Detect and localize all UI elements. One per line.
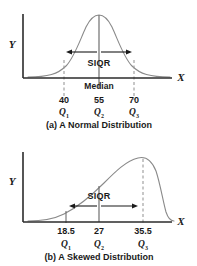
statistics-figure-page: Y X SIQR Median 40 55 70 Q1 [0,0,197,266]
tick-value-q1: 18.5 [57,226,75,236]
siqr-label: SIQR [88,58,111,68]
quartile-subscript-q3: 3 [136,113,139,119]
siqr-label: SIQR [88,191,111,201]
x-axis-label: X [176,215,185,227]
quartile-label-q2: Q2 [94,107,104,119]
quartile-label-q1: Q1 [61,239,71,251]
tick-value-q2: 27 [94,226,104,236]
tick-value-q1: 40 [59,95,69,105]
panel-skewed-distribution: Y X SIQR 18.5 27 35.5 Q1 Q2 [0,133,197,266]
siqr-left-arrow [66,49,97,54]
tick-value-q3: 35.5 [134,226,152,236]
panel-caption: (b) A Skewed Distribution [45,252,154,262]
y-axis-label: Y [9,175,17,187]
panel-normal-distribution: Y X SIQR Median 40 55 70 Q1 [0,0,197,133]
quartile-subscript-q2: 2 [101,245,104,251]
tick-value-q3: 70 [129,95,139,105]
skewed-distribution-plot: Y X SIQR 18.5 27 35.5 Q1 Q2 [0,133,197,266]
panel-caption: (a) A Normal Distribution [46,120,152,130]
siqr-left-arrow [69,203,97,208]
normal-distribution-plot: Y X SIQR Median 40 55 70 Q1 [0,0,197,133]
quartile-subscript-q2: 2 [101,113,104,119]
quartile-subscript-q3: 3 [145,245,148,251]
quartile-label-q2: Q2 [94,239,104,251]
y-axis-label: Y [9,38,17,50]
quartile-label-q1: Q1 [59,107,69,119]
x-axis-label: X [176,71,185,83]
quartile-label-q3: Q3 [129,107,139,119]
median-label: Median [84,81,113,91]
tick-value-q2: 55 [94,95,104,105]
siqr-right-arrow [101,49,132,54]
quartile-label-q3: Q3 [138,239,148,251]
siqr-right-arrow [101,203,138,208]
quartile-subscript-q1: 1 [66,113,69,119]
quartile-subscript-q1: 1 [68,245,71,251]
skewed-curve [28,158,174,221]
